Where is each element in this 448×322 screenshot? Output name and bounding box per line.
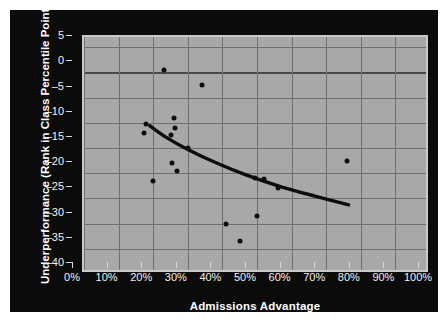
gridline-horizontal (84, 123, 426, 124)
gridline-vertical (188, 37, 189, 270)
scatter-point (141, 130, 146, 135)
chart-figure: 50–5–10–15–20–25–30–35–40 0%10%20%30%40%… (0, 0, 448, 322)
x-axis-tick (245, 262, 246, 268)
gridline-vertical (292, 37, 293, 270)
gridline-horizontal (84, 72, 426, 74)
gridline-horizontal (84, 249, 426, 250)
x-axis-tick (383, 262, 384, 268)
gridline-horizontal (84, 198, 426, 199)
x-axis-tick-label: 90% (372, 271, 394, 283)
scatter-point (261, 177, 266, 182)
y-axis-tick (66, 35, 72, 36)
x-axis-tick-label: 50% (234, 271, 256, 283)
gridline-horizontal (84, 98, 426, 99)
gridline-horizontal (84, 224, 426, 225)
x-axis-tick-label: 60% (269, 271, 291, 283)
scatter-point (161, 67, 166, 72)
x-axis-tick (72, 262, 73, 268)
x-axis-tick-label: 30% (165, 271, 187, 283)
x-axis-tick (141, 262, 142, 268)
gridline-vertical (257, 37, 258, 270)
scatter-point (174, 168, 179, 173)
y-axis-tick (66, 86, 72, 87)
scatter-point (253, 176, 258, 181)
x-axis-tick-label: 20% (130, 271, 152, 283)
gridline-vertical (361, 37, 362, 270)
y-axis-title: Underperformance (Rank in Class Percenti… (39, 34, 51, 284)
scatter-point (199, 82, 204, 87)
x-axis-tick-label: 0% (64, 271, 80, 283)
chart-panel: 50–5–10–15–20–25–30–35–40 0%10%20%30%40%… (10, 10, 438, 312)
x-axis-tick-label: 70% (303, 271, 325, 283)
x-axis-tick (314, 262, 315, 268)
gridline-vertical (326, 37, 327, 270)
y-axis-tick (66, 111, 72, 112)
gridline-vertical (395, 37, 396, 270)
scatter-point (169, 133, 174, 138)
scatter-point (255, 214, 260, 219)
y-axis-tick (66, 161, 72, 162)
scatter-point (172, 125, 177, 130)
x-axis-tick-label: 100% (404, 271, 432, 283)
y-axis-tick (66, 60, 72, 61)
x-axis-tick-label: 10% (96, 271, 118, 283)
gridline-vertical (84, 37, 85, 270)
gridline-vertical (153, 37, 154, 270)
scatter-point (275, 186, 280, 191)
x-axis-tick (418, 262, 419, 268)
y-axis-tick (66, 186, 72, 187)
y-axis-tick (66, 212, 72, 213)
x-axis-tick-label: 40% (199, 271, 221, 283)
gridline-horizontal (84, 173, 426, 174)
x-axis-tick (210, 262, 211, 268)
scatter-point (171, 115, 176, 120)
scatter-point (143, 122, 148, 127)
scatter-point (170, 161, 175, 166)
x-axis-tick (349, 262, 350, 268)
x-axis-title: Admissions Advantage (82, 300, 428, 312)
scatter-point (151, 178, 156, 183)
scatter-point (223, 221, 228, 226)
y-axis-tick (66, 237, 72, 238)
y-axis-tick (66, 136, 72, 137)
gridline-horizontal (84, 47, 426, 48)
x-axis-tick (176, 262, 177, 268)
x-axis-tick-label: 80% (338, 271, 360, 283)
scatter-point (237, 239, 242, 244)
scatter-point (185, 145, 190, 150)
x-axis-tick (280, 262, 281, 268)
x-axis-tick (107, 262, 108, 268)
gridline-vertical (119, 37, 120, 270)
gridline-vertical (222, 37, 223, 270)
gridline-horizontal (84, 148, 426, 149)
scatter-point (344, 158, 349, 163)
plot-area (82, 35, 428, 272)
